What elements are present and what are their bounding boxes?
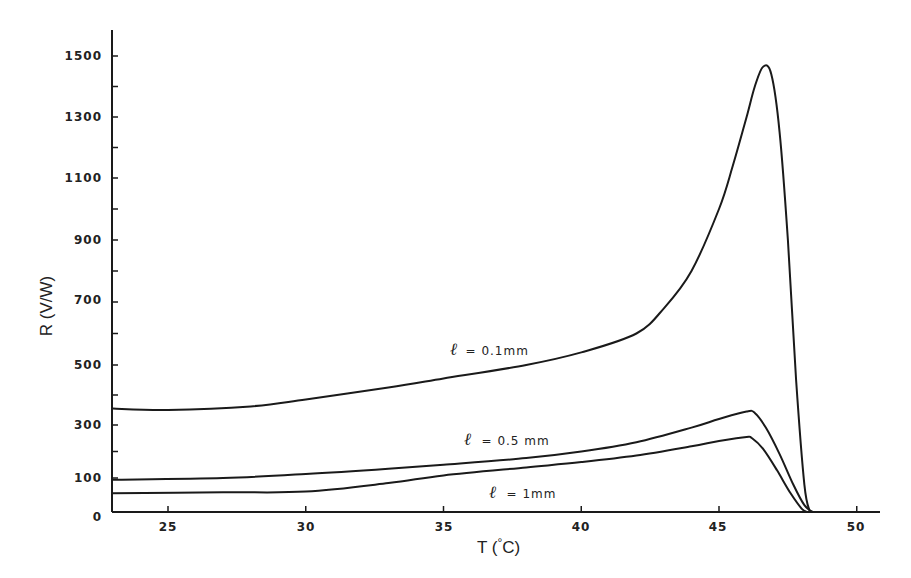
- y-tick-label-0: 0: [93, 510, 102, 524]
- x-axis: [112, 506, 880, 512]
- curve-l-0-5mm: [113, 411, 813, 512]
- annotation-l-1mm: ℓ = 1mm: [489, 482, 556, 502]
- x-axis-title-unit: C): [502, 538, 520, 557]
- y-tick-label-1300: 1300: [65, 110, 102, 124]
- y-tick-label-900: 900: [74, 233, 102, 247]
- y-axis: [112, 30, 118, 512]
- x-tick-label-35: 35: [435, 520, 454, 534]
- x-tick-label-50: 50: [847, 520, 866, 534]
- x-tick-label-30: 30: [297, 520, 316, 534]
- y-tick-label-1500: 1500: [65, 49, 102, 63]
- curve-l-1mm: [113, 437, 807, 512]
- annotation-l-0-1mm: ℓ = 0.1mm: [450, 339, 529, 359]
- y-tick-label-500: 500: [74, 358, 102, 372]
- annotation-l-0-5mm: ℓ = 0.5 mm: [464, 429, 550, 449]
- chart: 0 100 300 500 700 900 1100 1300 1500 25 …: [0, 0, 911, 578]
- x-tick-label-25: 25: [159, 520, 178, 534]
- y-tick-label-1100: 1100: [65, 171, 102, 185]
- y-tick-label-300: 300: [74, 418, 102, 432]
- y-tick-label-100: 100: [74, 471, 102, 485]
- x-axis-title: T (°C): [477, 536, 520, 557]
- x-axis-title-main: T (: [477, 538, 498, 557]
- x-tick-label-40: 40: [572, 520, 591, 534]
- x-tick-label-45: 45: [709, 520, 728, 534]
- y-tick-label-700: 700: [74, 293, 102, 307]
- y-axis-title: R (V/W): [37, 276, 56, 336]
- curve-l-0-1mm: [113, 65, 810, 512]
